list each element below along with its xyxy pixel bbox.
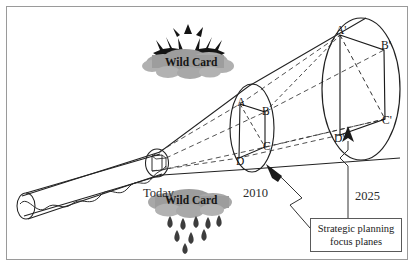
vertex-label-d: D [236, 155, 244, 167]
vertex-label-d-prime: D' [334, 132, 344, 144]
vertex-label-a-prime: A' [336, 24, 346, 36]
vertex-label-c-prime: C' [382, 114, 392, 126]
plane-link-dashed [265, 35, 385, 147]
wild-card-top-label: Wild Card [165, 56, 218, 68]
diagram-canvas: Wild Card Wild Card Today 2010 2025 A B … [0, 0, 416, 268]
vertex-label-b: B [262, 105, 270, 117]
raindrops [167, 215, 221, 254]
far-plane-quad [340, 35, 385, 135]
cone-outline [22, 18, 400, 216]
vertex-label-a: A [237, 96, 245, 108]
wild-card-bottom-label: Wild Card [165, 194, 218, 206]
callout-line-2: focus planes [330, 235, 382, 248]
callout-line-1: Strategic planning [318, 222, 395, 235]
vertex-label-c: C [263, 140, 271, 152]
timeline-label-2010: 2010 [243, 186, 268, 201]
vertex-label-b-prime: B' [381, 39, 391, 51]
strategic-planning-focus-planes-callout: Strategic planning focus planes [310, 218, 402, 252]
timeline-label-2025: 2025 [355, 189, 380, 204]
